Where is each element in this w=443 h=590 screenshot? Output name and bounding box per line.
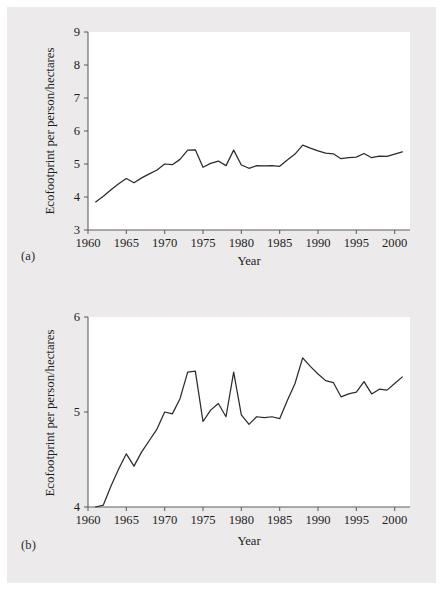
chart-panel-b: 456 196019651970197519801985199019952000…	[7, 295, 436, 583]
x-ticks-b: 196019651970197519801985199019952000	[75, 507, 407, 527]
panel-label-a: (a)	[21, 249, 35, 264]
y-tick-label: 4	[74, 190, 81, 204]
y-ticks-b: 456	[74, 310, 88, 514]
y-tick-label: 8	[74, 58, 80, 72]
x-tick-label: 1990	[305, 236, 330, 250]
x-tick-label: 1970	[152, 236, 177, 250]
y-tick-label: 6	[74, 310, 80, 324]
figure-page: 3456789 19601965197019751980198519901995…	[7, 7, 436, 583]
x-tick-label: 1985	[267, 236, 292, 250]
y-ticks-a: 3456789	[74, 25, 88, 237]
x-ticks-a: 196019651970197519801985199019952000	[75, 230, 407, 250]
x-tick-label: 1985	[267, 513, 292, 527]
x-tick-label: 1995	[344, 513, 369, 527]
y-tick-label: 9	[74, 25, 80, 39]
x-tick-label: 1960	[75, 236, 100, 250]
x-tick-label: 1960	[75, 513, 100, 527]
x-tick-label: 1995	[344, 236, 369, 250]
x-tick-label: 1975	[190, 236, 215, 250]
plot-area-a	[88, 32, 410, 230]
y-axis-title-a: Ecofootprint per person/hectares	[43, 47, 57, 214]
x-tick-label: 1980	[229, 513, 254, 527]
y-tick-label: 6	[74, 124, 80, 138]
x-tick-label: 1965	[114, 236, 139, 250]
plot-area-b	[88, 317, 410, 507]
x-tick-label: 1965	[114, 513, 139, 527]
x-tick-label: 1970	[152, 513, 177, 527]
x-axis-title-b: Year	[237, 534, 261, 548]
x-tick-label: 2000	[382, 236, 407, 250]
chart-a-svg: 3456789 19601965197019751980198519901995…	[7, 7, 436, 295]
x-tick-label: 2000	[382, 513, 407, 527]
x-axis-title-a: Year	[237, 254, 261, 268]
y-tick-label: 7	[74, 91, 80, 105]
panel-label-b: (b)	[21, 538, 36, 553]
x-tick-label: 1980	[229, 236, 254, 250]
chart-b-svg: 456 196019651970197519801985199019952000…	[7, 295, 436, 583]
y-tick-label: 5	[74, 157, 80, 171]
chart-panel-a: 3456789 19601965197019751980198519901995…	[7, 7, 436, 295]
x-tick-label: 1975	[190, 513, 215, 527]
y-tick-label: 5	[74, 405, 80, 419]
y-axis-title-b: Ecofootprint per person/hectares	[43, 329, 57, 496]
x-tick-label: 1990	[305, 513, 330, 527]
